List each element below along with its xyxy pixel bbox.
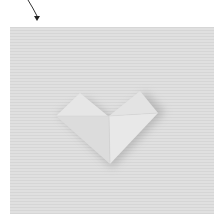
origami-heart (0, 0, 216, 222)
